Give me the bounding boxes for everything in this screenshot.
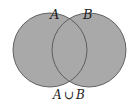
caption-right: B bbox=[75, 88, 85, 102]
set-b-label: B bbox=[82, 7, 93, 22]
caption-union-symbol: ∪ bbox=[64, 88, 74, 102]
union-region bbox=[13, 13, 126, 87]
caption-left: A bbox=[52, 88, 62, 102]
venn-diagram: A B A ∪ B bbox=[0, 0, 135, 103]
set-a-label: A bbox=[49, 7, 59, 22]
